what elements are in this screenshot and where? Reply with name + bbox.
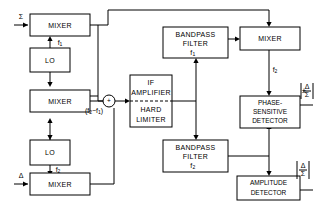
arrowhead-bpf1-in xyxy=(193,58,198,63)
arrowhead-lo1-down xyxy=(47,82,52,87)
summing-junction[interactable]: + xyxy=(103,95,115,107)
psd-output-numerator: Δ xyxy=(305,83,310,90)
psd-label-line1: PHASE- xyxy=(258,99,282,106)
arrowhead-if-in xyxy=(125,98,130,103)
summing-junction-symbol: + xyxy=(107,97,111,104)
block-if-amplifier-hard-limiter[interactable]: IF AMPLIFIER HARD LIMITER xyxy=(130,75,172,127)
lo-2-label: LO xyxy=(45,149,55,156)
sum-input-label: Σ xyxy=(19,13,24,20)
if-amp-label-line2: AMPLIFIER xyxy=(131,89,171,96)
ampdet-label-line2: DETECTOR xyxy=(251,189,287,196)
psd-output-notation: ± Δ Σ xyxy=(301,83,313,99)
arrowhead-mixer-out-in xyxy=(266,22,271,27)
arrowhead-bpf2-in xyxy=(193,135,198,140)
psd-label-line3: DETECTOR xyxy=(252,117,288,124)
arrowhead-lo2-lower xyxy=(47,135,52,140)
arrowhead-sum-input xyxy=(23,22,28,27)
mixer-mid-label: MIXER xyxy=(48,98,72,105)
block-bandpass-filter-f1[interactable]: BANDPASS FILTER f1 xyxy=(163,27,228,58)
ampdet-output-numerator: Δ xyxy=(301,162,306,169)
ampdet-label-line1: AMPLITUDE xyxy=(250,179,288,186)
if-difference-label: (f2−f1) xyxy=(85,107,103,115)
mixer-sum-label: MIXER xyxy=(48,22,72,29)
delta-input-label: Δ xyxy=(19,172,24,179)
arrowhead-psd-in xyxy=(266,91,271,96)
lo-1-label: LO xyxy=(45,57,55,64)
block-mixer-mid[interactable]: MIXER xyxy=(30,90,90,112)
block-amplitude-detector[interactable]: AMPLITUDE DETECTOR xyxy=(237,176,300,200)
bpf2-label-line2: FILTER xyxy=(183,153,208,160)
wire-mixer-delta-to-junction xyxy=(90,108,114,184)
mixer-out-freq-label: f2 xyxy=(273,66,278,74)
block-bandpass-filter-f2[interactable]: BANDPASS FILTER f2 xyxy=(163,140,228,172)
wire-top-bus xyxy=(108,10,269,25)
block-mixer-delta[interactable]: MIXER xyxy=(30,173,90,195)
hard-limiter-label-line1: HARD xyxy=(140,106,161,113)
wire-mixer-sum-to-junction xyxy=(98,25,104,101)
psd-label-line2: SENSITIVE xyxy=(253,108,288,115)
arrowhead-lo2-up xyxy=(47,118,52,123)
if-amp-label-line1: IF xyxy=(148,79,155,86)
arrowhead-delta-input xyxy=(23,181,28,186)
hard-limiter-label-line2: LIMITER xyxy=(136,116,166,123)
mixer-out-label: MIXER xyxy=(258,35,282,42)
bpf1-label-line1: BANDPASS xyxy=(175,31,215,38)
ampdet-output-denominator: Σ xyxy=(301,170,306,177)
block-mixer-out[interactable]: MIXER xyxy=(240,27,300,50)
lo1-freq-label: f1 xyxy=(58,39,63,47)
mixer-delta-label: MIXER xyxy=(48,181,72,188)
block-lo-1[interactable]: LO xyxy=(30,48,70,72)
block-mixer-sum[interactable]: MIXER xyxy=(30,14,90,36)
arrowhead-mixer-out-left xyxy=(235,36,240,41)
block-diagram: MIXER LO MIXER LO MIXER + IF AMPLIFIER H… xyxy=(0,0,315,214)
bpf2-label-line1: BANDPASS xyxy=(175,144,215,151)
bpf1-label-line2: FILTER xyxy=(183,40,208,47)
psd-output-denominator: Σ xyxy=(305,91,310,98)
arrowhead-ampdet-in xyxy=(266,171,271,176)
block-lo-2[interactable]: LO xyxy=(30,140,70,165)
arrowhead-lo1-up xyxy=(47,36,52,41)
block-phase-sensitive-detector[interactable]: PHASE- SENSITIVE DETECTOR xyxy=(240,96,300,128)
